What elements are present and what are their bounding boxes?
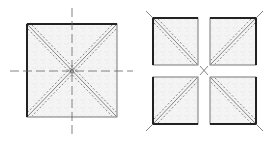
diagram-canvas (0, 0, 271, 141)
square-top-left (153, 18, 198, 65)
four-square-panel (146, 11, 263, 131)
left-square-panel (10, 8, 133, 134)
square-bottom-left (153, 77, 198, 124)
diagram-svg (0, 0, 271, 141)
square-top-right (210, 18, 256, 65)
center-x-icon (200, 66, 208, 75)
square-bottom-right (210, 77, 256, 124)
